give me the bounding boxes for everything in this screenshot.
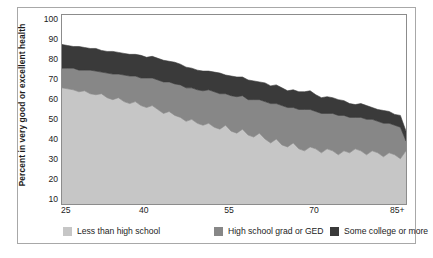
x-tick-40: 40 [139,206,149,215]
y-tick-60: 60 [36,95,58,104]
x-tick-85plus: 85+ [390,206,405,215]
y-tick-80: 80 [36,55,58,64]
y-tick-70: 70 [36,75,58,84]
legend-swatch-icon-1 [214,227,223,236]
x-axis-tick-labels: 2540557085+ [61,206,407,220]
legend-item-2: Some college or more [330,223,428,239]
x-tick-55: 55 [224,206,234,215]
y-axis-label: Percent in very good or excellent health [17,15,27,195]
legend-item-1: High school grad or GED [214,223,324,239]
x-tick-70: 70 [309,206,319,215]
y-tick-50: 50 [36,115,58,124]
stacked-area-chart [62,15,406,204]
y-tick-10: 10 [36,195,58,204]
y-axis-tick-labels: 100908070605040302010 [36,0,58,258]
y-tick-20: 20 [36,175,58,184]
legend-item-0: Less than high school [63,223,160,239]
legend-swatch-icon-0 [63,227,72,236]
legend-label-1: High school grad or GED [228,226,324,236]
figure: Percent in very good or excellent health… [0,0,433,258]
y-tick-40: 40 [36,135,58,144]
y-tick-100: 100 [36,15,58,24]
y-tick-30: 30 [36,155,58,164]
legend-label-2: Some college or more [344,226,428,236]
legend-swatch-icon-2 [330,227,339,236]
chart-legend: Less than high schoolHigh school grad or… [18,223,415,241]
legend-label-0: Less than high school [77,226,160,236]
y-tick-90: 90 [36,35,58,44]
x-tick-25: 25 [61,206,71,215]
plot-area [61,14,407,205]
